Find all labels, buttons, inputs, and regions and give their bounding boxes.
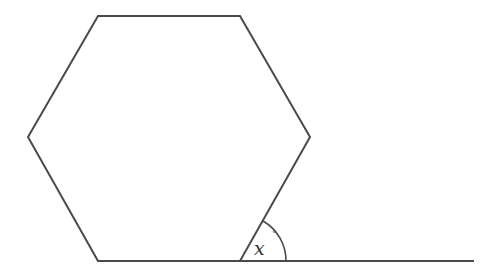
- hexagon-diagram: x °: [0, 0, 501, 272]
- exterior-angle-arc: [263, 221, 286, 261]
- degree-symbol: °: [272, 228, 277, 239]
- angle-label-x: x: [254, 237, 265, 259]
